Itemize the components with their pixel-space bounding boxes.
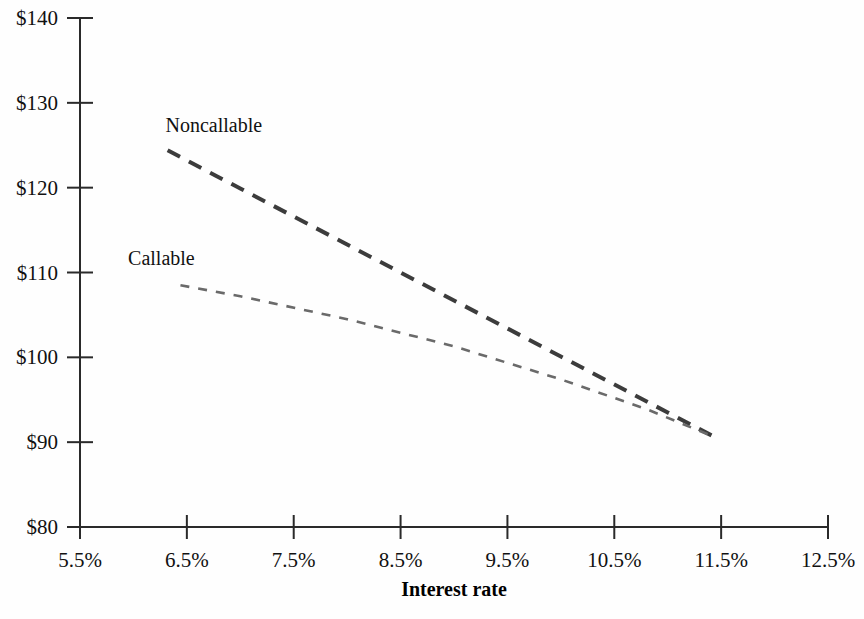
y-tick-label: $110 xyxy=(17,261,58,285)
x-tick-label: 6.5% xyxy=(165,548,209,572)
y-tick-label: $140 xyxy=(16,6,58,30)
x-tick-label: 10.5% xyxy=(587,548,641,572)
series-line-callable xyxy=(180,285,714,437)
x-tick-label: 11.5% xyxy=(694,548,747,572)
chart-canvas: $140$130$120$110$100$90$80 5.5%6.5%7.5%8… xyxy=(0,0,864,619)
y-tick-label: $80 xyxy=(27,515,59,539)
x-tick-label: 7.5% xyxy=(272,548,316,572)
series-annotation-callable: Callable xyxy=(128,247,195,269)
y-axis: $140$130$120$110$100$90$80 xyxy=(16,6,93,539)
series-annotation-noncallable: Noncallable xyxy=(165,114,262,136)
data-series-group xyxy=(168,150,715,437)
x-tick-label: 12.5% xyxy=(801,548,855,572)
x-axis-title: Interest rate xyxy=(401,578,507,600)
x-tick-label: 9.5% xyxy=(486,548,530,572)
series-line-noncallable xyxy=(168,150,715,437)
y-tick-label: $130 xyxy=(16,91,58,115)
y-tick-label: $120 xyxy=(16,176,58,200)
y-tick-label: $100 xyxy=(16,345,58,369)
bond-price-vs-interest-rate-chart: $140$130$120$110$100$90$80 5.5%6.5%7.5%8… xyxy=(0,0,864,619)
x-tick-label: 8.5% xyxy=(379,548,423,572)
x-axis: 5.5%6.5%7.5%8.5%9.5%10.5%11.5%12.5% xyxy=(58,515,855,572)
y-tick-label: $90 xyxy=(27,430,59,454)
x-tick-label: 5.5% xyxy=(58,548,102,572)
